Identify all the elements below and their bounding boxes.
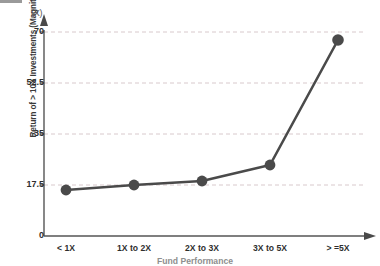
x-tick-label-gte-5x: > =5X — [327, 243, 350, 253]
y-tick-label-17-5: 17.5 — [18, 179, 44, 189]
x-tick-label-lt-1x: < 1X — [57, 243, 75, 253]
data-point-marker[interactable] — [129, 180, 140, 191]
y-tick-label-52-5: 52.5 — [18, 77, 44, 87]
x-axis-title: Fund Performance — [157, 256, 233, 266]
data-series-line — [66, 40, 338, 190]
x-tick-label-3x-5x: 3X to 5X — [253, 243, 287, 253]
y-axis-tick-labels: 70 52.5 35 17.5 0 — [12, 0, 44, 262]
x-tick-label-1x-2x: 1X to 2X — [117, 243, 151, 253]
y-tick-label-35: 35 — [18, 128, 44, 138]
gridlines — [44, 32, 366, 185]
y-tick-label-0: 0 — [18, 230, 44, 240]
x-axis-line — [44, 232, 376, 240]
x-tick-label-2x-3x: 2X to 3X — [185, 243, 219, 253]
y-tick-label-70: 70 — [18, 26, 44, 36]
data-point-marker[interactable] — [197, 176, 208, 187]
data-point-marker[interactable] — [332, 34, 344, 46]
data-point-marker[interactable] — [265, 160, 276, 171]
data-point-markers — [61, 34, 344, 195]
data-point-marker[interactable] — [61, 185, 72, 196]
